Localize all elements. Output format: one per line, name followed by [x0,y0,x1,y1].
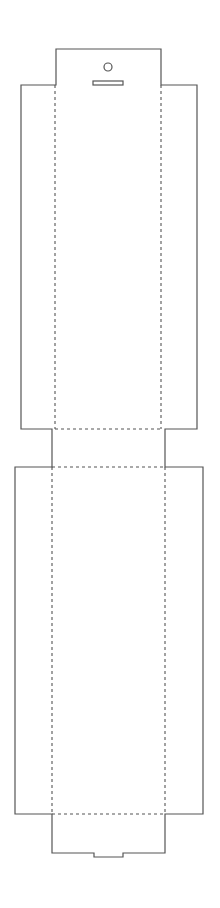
hang-hole-icon [104,63,112,71]
hang-slot [93,81,123,85]
die-cut-template: Packaging die-cut template (hang-tab sle… [0,0,220,908]
outer-cut-line [15,49,203,857]
template-drawing [0,0,220,908]
